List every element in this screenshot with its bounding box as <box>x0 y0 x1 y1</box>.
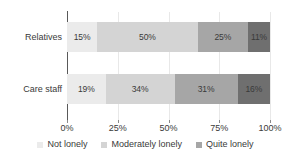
bar-segment-value: 11% <box>251 33 267 42</box>
legend-swatch-icon <box>37 142 43 148</box>
x-tick-label: 0% <box>60 124 73 133</box>
category-label-care-staff: Care staff <box>23 85 62 94</box>
bar-segment-value: 25% <box>214 33 231 42</box>
bar-segment: 11% <box>248 22 270 52</box>
bar-segment: 19% <box>67 74 106 104</box>
x-tick-label: 25% <box>109 124 127 133</box>
bar-row: 19%34%31%16% <box>67 74 270 104</box>
x-axis: 0%25%50%75%100% <box>67 120 270 136</box>
bar-segment-value: 50% <box>139 33 156 42</box>
bar-segment: 34% <box>106 74 175 104</box>
chart-legend: Not lonelyModerately lonelyQuite lonely <box>0 140 291 149</box>
bar-series-container: 15%50%25%11%19%34%31%16% <box>67 12 270 120</box>
x-tick-label: 50% <box>159 124 177 133</box>
legend-label: Moderately lonely <box>111 140 182 149</box>
bar-segment-value: 19% <box>78 85 95 94</box>
bar-segment: 15% <box>67 22 97 52</box>
bar-segment-value: 31% <box>198 85 215 94</box>
bar-segment-value: 34% <box>132 85 149 94</box>
legend-item[interactable]: Quite lonely <box>196 140 254 149</box>
bar-segment-value: 15% <box>74 33 91 42</box>
plot-area: 15%50%25%11%19%34%31%16% <box>67 12 270 120</box>
legend-label: Not lonely <box>47 140 87 149</box>
legend-label: Quite lonely <box>206 140 254 149</box>
x-tick-label: 100% <box>258 124 281 133</box>
bar-segment: 50% <box>97 22 198 52</box>
bar-segment: 25% <box>198 22 248 52</box>
stacked-bar-chart: Relatives Care staff 15%50%25%11%19%34%3… <box>0 0 291 162</box>
legend-swatch-icon <box>196 142 202 148</box>
x-tick-label: 75% <box>210 124 228 133</box>
bar-segment: 16% <box>238 74 270 104</box>
category-label-relatives: Relatives <box>25 33 62 42</box>
legend-item[interactable]: Moderately lonely <box>101 140 182 149</box>
bar-row: 15%50%25%11% <box>67 22 270 52</box>
legend-swatch-icon <box>101 142 107 148</box>
legend-item[interactable]: Not lonely <box>37 140 87 149</box>
bar-segment: 31% <box>175 74 238 104</box>
gridline-100 <box>270 12 271 120</box>
bar-segment-value: 16% <box>245 85 262 94</box>
